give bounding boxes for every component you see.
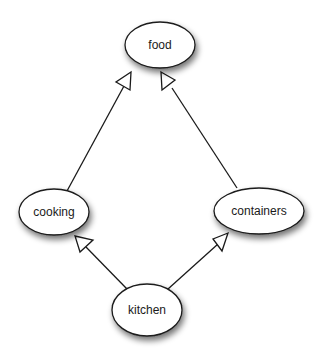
node-kitchen: kitchen (112, 284, 182, 336)
edge-containers-to-food (161, 72, 237, 188)
hollow-arrowhead-icon (161, 72, 175, 90)
hollow-arrowhead-icon (213, 233, 228, 251)
node-containers: containers (214, 188, 304, 234)
node-food: food (125, 22, 195, 68)
node-label-containers: containers (231, 204, 286, 218)
node-cooking: cooking (19, 189, 89, 235)
diagram-canvas: food cooking containers kitchen (0, 0, 314, 357)
edge-kitchen-to-cooking (75, 236, 127, 289)
node-label-cooking: cooking (33, 205, 74, 219)
node-label-food: food (148, 38, 171, 52)
hollow-arrowhead-icon (75, 236, 93, 252)
edge-cooking-to-food (67, 72, 131, 191)
node-label-kitchen: kitchen (128, 303, 166, 317)
edge-kitchen-to-containers (168, 233, 228, 289)
